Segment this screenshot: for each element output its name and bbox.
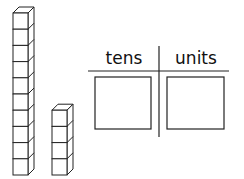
units-label: units xyxy=(168,50,224,67)
units-answer-box[interactable] xyxy=(167,77,224,129)
unit-cubes-column xyxy=(52,104,73,175)
tens-answer-box[interactable] xyxy=(95,77,151,129)
tens-label: tens xyxy=(98,50,150,67)
base-ten-blocks xyxy=(0,0,244,179)
tens-rod xyxy=(13,7,34,175)
